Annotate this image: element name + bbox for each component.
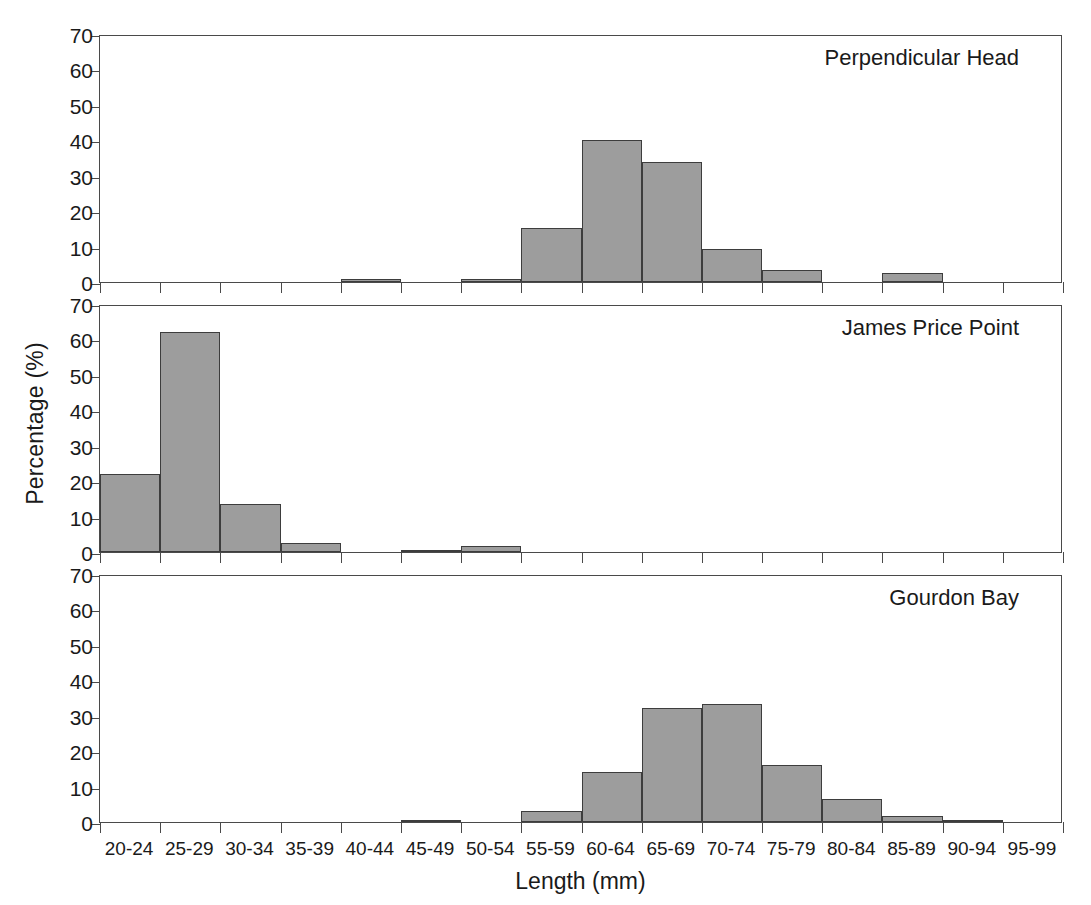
x-tick-mark <box>401 552 402 563</box>
y-tick-label: 60 <box>70 599 93 623</box>
x-tick-mark <box>642 282 643 293</box>
y-tick-label: 60 <box>70 329 93 353</box>
bar <box>582 140 642 282</box>
bar <box>822 799 882 822</box>
y-tick-label: 40 <box>70 670 93 694</box>
x-tick-mark <box>582 552 583 563</box>
bar <box>943 820 1003 823</box>
y-tick-label: 60 <box>70 59 93 83</box>
x-tick-mark <box>100 822 101 833</box>
bar <box>401 550 461 553</box>
x-tick-mark <box>341 822 342 833</box>
x-tick-mark <box>521 822 522 833</box>
y-tick-label: 0 <box>81 272 93 296</box>
y-tick-label: 40 <box>70 400 93 424</box>
bar <box>100 474 160 552</box>
x-tick-label: 60-64 <box>586 838 635 860</box>
x-axis-title: Length (mm) <box>99 868 1062 895</box>
x-tick-mark <box>822 552 823 563</box>
x-tick-label: 95-99 <box>1008 838 1057 860</box>
x-tick-mark <box>100 282 101 293</box>
y-tick-label: 20 <box>70 741 93 765</box>
bar <box>341 279 401 282</box>
x-tick-mark <box>1063 822 1064 833</box>
bar-series <box>100 576 1061 822</box>
x-tick-mark <box>762 822 763 833</box>
y-tick-label: 70 <box>70 564 93 588</box>
x-tick-mark <box>220 822 221 833</box>
y-tick-label: 70 <box>70 294 93 318</box>
x-tick-label: 35-39 <box>285 838 334 860</box>
bar-series <box>100 306 1061 552</box>
x-tick-mark <box>401 822 402 833</box>
x-tick-mark <box>401 282 402 293</box>
x-tick-mark <box>341 552 342 563</box>
bar <box>281 543 341 552</box>
x-tick-label: 55-59 <box>526 838 575 860</box>
x-tick-mark <box>882 552 883 563</box>
y-tick-label: 40 <box>70 130 93 154</box>
y-tick-label: 0 <box>81 812 93 836</box>
y-tick-label: 30 <box>70 706 93 730</box>
bar <box>521 228 581 282</box>
y-tick-label: 10 <box>70 777 93 801</box>
x-tick-label: 90-94 <box>947 838 996 860</box>
x-tick-label: 70-74 <box>707 838 756 860</box>
x-tick-mark <box>882 282 883 293</box>
x-tick-mark <box>642 552 643 563</box>
y-tick-label: 50 <box>70 635 93 659</box>
x-tick-label: 45-49 <box>406 838 455 860</box>
x-tick-mark <box>461 552 462 563</box>
x-tick-mark <box>642 822 643 833</box>
bar <box>642 708 702 822</box>
y-tick-label: 20 <box>70 201 93 225</box>
bar <box>762 270 822 282</box>
x-tick-mark <box>341 282 342 293</box>
bar <box>461 546 521 552</box>
bar-series <box>100 36 1061 282</box>
y-tick-label: 50 <box>70 95 93 119</box>
x-tick-mark <box>1063 552 1064 563</box>
y-tick-label: 10 <box>70 507 93 531</box>
x-tick-mark <box>702 282 703 293</box>
x-tick-mark <box>943 282 944 293</box>
x-tick-label: 25-29 <box>165 838 214 860</box>
x-tick-mark <box>100 552 101 563</box>
x-axis-tick-labels: 20-2425-2930-3435-3940-4445-4950-5455-59… <box>99 838 1062 864</box>
bar <box>702 249 762 282</box>
x-tick-mark <box>1003 822 1004 833</box>
y-tick-label: 50 <box>70 365 93 389</box>
x-tick-mark <box>160 282 161 293</box>
x-tick-mark <box>702 552 703 563</box>
bar <box>882 273 942 282</box>
y-tick-label: 30 <box>70 436 93 460</box>
y-tick-label: 0 <box>81 542 93 566</box>
bar <box>642 162 702 282</box>
x-tick-mark <box>1003 282 1004 293</box>
y-tick-label: 10 <box>70 237 93 261</box>
x-tick-mark <box>281 552 282 563</box>
x-tick-mark <box>521 282 522 293</box>
x-tick-mark <box>882 822 883 833</box>
x-tick-label: 20-24 <box>105 838 154 860</box>
panel-perpendicular-head: Perpendicular Head 010203040506070 <box>99 35 1062 283</box>
bar <box>762 765 822 822</box>
bar <box>702 704 762 822</box>
x-tick-mark <box>822 282 823 293</box>
x-tick-mark <box>702 822 703 833</box>
bar <box>160 332 220 552</box>
bar <box>521 811 581 822</box>
x-tick-mark <box>461 822 462 833</box>
x-tick-mark <box>281 282 282 293</box>
x-tick-label: 75-79 <box>767 838 816 860</box>
bar <box>461 279 521 282</box>
x-tick-mark <box>160 552 161 563</box>
x-tick-label: 30-34 <box>225 838 274 860</box>
x-tick-label: 85-89 <box>887 838 936 860</box>
x-tick-mark <box>160 822 161 833</box>
y-axis-title: Percentage (%) <box>22 304 49 544</box>
panel-james-price-point: James Price Point 010203040506070 <box>99 305 1062 553</box>
y-tick-label: 20 <box>70 471 93 495</box>
y-tick-label: 30 <box>70 166 93 190</box>
x-tick-mark <box>1003 552 1004 563</box>
